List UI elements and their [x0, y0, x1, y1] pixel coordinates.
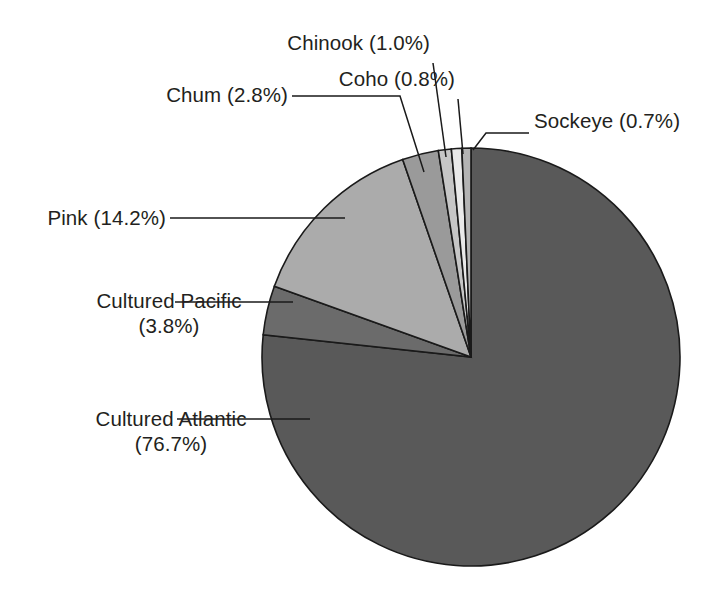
pie-label-pink: Pink (14.2%): [0, 205, 166, 230]
pie-slices: [262, 148, 680, 566]
pie-label-coho-text: Coho (0.8%): [339, 67, 455, 90]
pie-label-cultured-atlantic-line2: (76.7%): [0, 431, 342, 456]
pie-chart-figure: Chinook (1.0%) Coho (0.8%) Sockeye (0.7%…: [0, 0, 711, 592]
pie-label-chum: Chum (2.8%): [0, 82, 288, 107]
pie-label-chum-text: Chum (2.8%): [166, 83, 288, 106]
pie-label-pink-text: Pink (14.2%): [47, 206, 166, 229]
pie-label-sockeye-text: Sockeye (0.7%): [534, 109, 680, 132]
pie-label-cultured-pacific: Cultured Pacific (3.8%): [0, 288, 338, 338]
pie-label-cultured-pacific-line2: (3.8%): [0, 313, 338, 338]
pie-label-chinook: Chinook (1.0%): [0, 30, 430, 55]
pie-label-sockeye: Sockeye (0.7%): [534, 108, 680, 133]
pie-label-chinook-text: Chinook (1.0%): [287, 31, 430, 54]
leader-line-coho: [458, 99, 463, 154]
pie-label-cultured-pacific-line1: Cultured Pacific: [96, 289, 241, 312]
leader-line-sockeye: [473, 133, 529, 150]
pie-label-cultured-atlantic-line1: Cultured Atlantic: [96, 407, 247, 430]
pie-label-cultured-atlantic: Cultured Atlantic (76.7%): [0, 406, 342, 456]
